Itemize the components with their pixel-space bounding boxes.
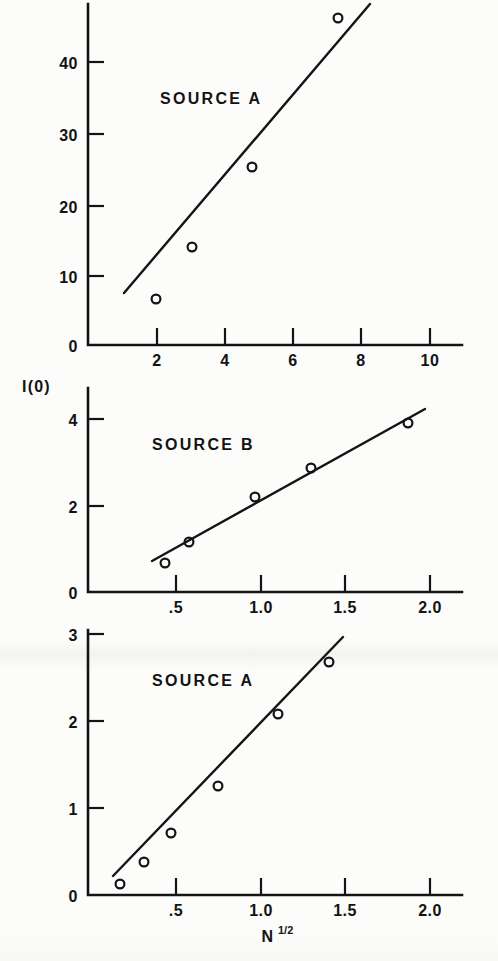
data-point [251,493,260,502]
figure-canvas: 40 30 20 10 0 2 4 6 8 10 SOURCE A [0,0,498,961]
panel-top-x-ticks [157,328,430,345]
panel-top-xtick-label-10: 10 [421,352,440,369]
x-axis-label-base: N [262,928,275,945]
panel-middle-xtick-label-p5: .5 [169,599,183,616]
panel-bottom-ytick-label-0: 0 [69,888,78,905]
panel-middle-series-label: SOURCE B [152,436,255,453]
panel-top-series-label: SOURCE A [160,90,262,107]
panel-top: 40 30 20 10 0 2 4 6 8 10 SOURCE A [59,4,462,369]
panel-top-xtick-label-8: 8 [356,352,365,369]
data-point [152,295,161,304]
x-axis-label-exponent: 1/2 [278,924,293,936]
y-axis-label: I(0) [22,378,51,395]
panel-bottom-ytick-label-1: 1 [69,801,78,818]
data-point [404,419,413,428]
data-point [140,858,149,867]
panel-top-xtick-label-2: 2 [152,352,161,369]
panel-bottom-data-points [116,658,334,889]
panel-bottom-xtick-label-p5: .5 [169,902,183,919]
panel-middle-y-ticks [88,419,104,506]
panel-middle-ytick-label-2: 2 [69,499,78,516]
panel-top-ytick-label-10: 10 [59,269,78,286]
panel-bottom-series-label: SOURCE A [152,672,254,689]
panel-top-ytick-label-40: 40 [59,55,78,72]
panel-bottom-axes [88,630,462,895]
panel-top-xtick-label-4: 4 [220,352,229,369]
panel-top-ytick-label-20: 20 [59,199,78,216]
panel-middle-ytick-label-4: 4 [69,412,78,429]
data-point [248,163,257,172]
panel-middle-ytick-label-0: 0 [69,585,78,602]
panel-middle-x-ticks [176,575,430,592]
panel-bottom-y-ticks [88,634,104,808]
panel-top-ytick-label-0: 0 [69,338,78,355]
panel-middle-xtick-label-1p5: 1.5 [333,599,357,616]
panel-bottom: 3 2 1 0 .5 1.0 1.5 2.0 SOURCE A N 1/2 [69,627,462,945]
x-axis-label-group: N 1/2 [262,924,294,945]
panel-top-y-ticks [88,62,104,276]
data-point [307,464,316,473]
panel-bottom-x-ticks [176,878,430,895]
panel-bottom-xtick-label-1p5: 1.5 [333,902,357,919]
panel-bottom-ytick-label-2: 2 [69,714,78,731]
data-point [334,14,343,23]
panel-bottom-ytick-label-3: 3 [69,627,78,644]
data-point [214,782,223,791]
data-point [274,710,283,719]
three-panel-plot-svg: 40 30 20 10 0 2 4 6 8 10 SOURCE A [0,0,498,961]
data-point [325,658,334,667]
panel-middle-xtick-label-1: 1.0 [249,599,273,616]
panel-middle-xtick-label-2: 2.0 [418,599,442,616]
panel-bottom-xtick-label-2: 2.0 [418,902,442,919]
data-point [161,559,170,568]
data-point [188,243,197,252]
data-point [167,829,176,838]
panel-top-ytick-label-30: 30 [59,127,78,144]
panel-middle: I(0) 4 2 0 .5 1.0 1.5 2.0 SOURCE B [22,378,462,616]
panel-bottom-xtick-label-1: 1.0 [249,902,273,919]
panel-top-data-points [152,14,343,304]
data-point [116,880,125,889]
panel-top-xtick-label-6: 6 [288,352,297,369]
panel-top-fit-line [124,4,370,293]
panel-top-axes [88,4,462,345]
